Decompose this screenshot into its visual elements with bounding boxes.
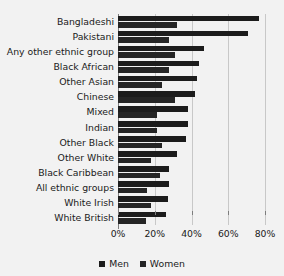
category-label: Mixed <box>0 104 114 119</box>
bar-women <box>118 173 160 179</box>
bar-women <box>118 203 151 209</box>
tick-label: 0% <box>103 228 133 239</box>
bar-group <box>118 180 265 195</box>
bar-women <box>118 188 147 194</box>
category-label: Indian <box>0 120 114 135</box>
bar-men <box>118 91 195 97</box>
bar-group <box>118 195 265 210</box>
category-label: Other Asian <box>0 74 114 89</box>
bar-women <box>118 22 177 28</box>
category-axis-labels: BangladeshiPakistaniAny other ethnic gro… <box>0 14 114 225</box>
legend-label: Women <box>150 258 185 269</box>
category-label: White British <box>0 210 114 225</box>
bar-group <box>118 29 265 44</box>
legend-item: Women <box>140 258 185 269</box>
tick-mark <box>265 211 266 215</box>
legend-label: Men <box>109 258 129 269</box>
bar-men <box>118 121 188 127</box>
tick-label: 80% <box>250 228 280 239</box>
bar-men <box>118 196 168 202</box>
bar-chart: BangladeshiPakistaniAny other ethnic gro… <box>0 0 284 276</box>
category-label: Other White <box>0 150 114 165</box>
bar-women <box>118 82 162 88</box>
tick-mark <box>155 211 156 215</box>
category-label: Black African <box>0 59 114 74</box>
bar-women <box>118 67 169 73</box>
bar-group <box>118 150 265 165</box>
category-label: All ethnic groups <box>0 180 114 195</box>
chart-legend: MenWomen <box>0 258 284 269</box>
legend-item: Men <box>99 258 129 269</box>
bar-men <box>118 61 199 67</box>
bar-women <box>118 112 157 118</box>
category-label: Pakistani <box>0 29 114 44</box>
bar-men <box>118 212 166 218</box>
bar-women <box>118 37 169 43</box>
bar-men <box>118 166 169 172</box>
bar-men <box>118 181 169 187</box>
bar-men <box>118 76 197 82</box>
bar-women <box>118 97 175 103</box>
bar-men <box>118 31 248 37</box>
tick-label: 20% <box>140 228 170 239</box>
bar-group <box>118 89 265 104</box>
category-label: Black Caribbean <box>0 165 114 180</box>
tick-mark <box>192 211 193 215</box>
bar-women <box>118 128 157 134</box>
bar-group <box>118 120 265 135</box>
bar-women <box>118 143 162 149</box>
legend-swatch-icon <box>140 261 146 267</box>
bar-group <box>118 59 265 74</box>
bar-group <box>118 135 265 150</box>
tick-mark <box>228 211 229 215</box>
tick-mark <box>118 211 119 215</box>
category-label: Other Black <box>0 135 114 150</box>
bar-women <box>118 218 146 224</box>
category-label: Any other ethnic group <box>0 44 114 59</box>
plot-area <box>118 14 265 225</box>
category-label: White Irish <box>0 195 114 210</box>
tick-label: 60% <box>213 228 243 239</box>
bar-women <box>118 52 175 58</box>
bar-group <box>118 165 265 180</box>
bar-men <box>118 151 177 157</box>
category-label: Bangladeshi <box>0 14 114 29</box>
bar-group <box>118 14 265 29</box>
bar-men <box>118 46 204 52</box>
gridline <box>265 14 266 225</box>
legend-swatch-icon <box>99 261 105 267</box>
bar-men <box>118 16 259 22</box>
bar-men <box>118 136 186 142</box>
tick-label: 40% <box>177 228 207 239</box>
bar-group <box>118 104 265 119</box>
category-label: Chinese <box>0 89 114 104</box>
bar-men <box>118 106 188 112</box>
bar-group <box>118 74 265 89</box>
bar-women <box>118 158 151 164</box>
bar-rows <box>118 14 265 225</box>
bar-group <box>118 44 265 59</box>
